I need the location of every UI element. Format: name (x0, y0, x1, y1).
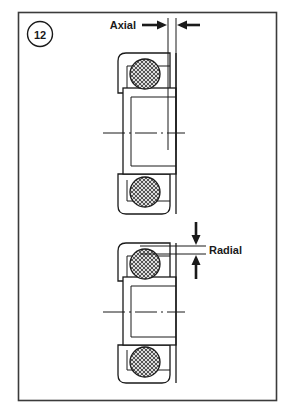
upper-ball-bottom (130, 177, 160, 207)
bearing-clearance-figure: 12 (0, 0, 296, 417)
figure-number-text: 12 (34, 29, 46, 41)
figure-number-badge: 12 (28, 22, 53, 47)
axial-label: Axial (110, 19, 136, 31)
upper-ball-top (130, 59, 160, 89)
lower-ball-bottom (130, 347, 160, 377)
radial-label: Radial (209, 244, 242, 256)
lower-inner-race (123, 277, 176, 345)
figure-canvas: 12 (0, 0, 296, 417)
